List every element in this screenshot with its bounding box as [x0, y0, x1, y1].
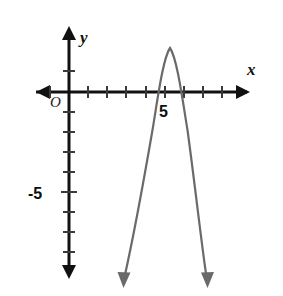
parabola-arrow-right: [201, 272, 214, 288]
graph-figure: y x O 5 -5: [0, 0, 283, 296]
y-tick-label-minus5: -5: [28, 186, 42, 202]
x-axis-arrow-right: [236, 85, 250, 99]
x-axis-arrow-left: [36, 85, 50, 99]
y-axis: [61, 26, 77, 279]
y-axis-label: y: [80, 29, 88, 46]
y-axis-arrow-up: [62, 26, 76, 40]
y-axis-arrow-down: [62, 265, 76, 279]
x-axis-label: x: [247, 61, 256, 78]
parabola-path: [125, 48, 207, 277]
parabola-curve: [118, 48, 215, 288]
coordinate-plane-svg: [0, 0, 283, 296]
x-tick-label-5: 5: [159, 104, 168, 120]
origin-label: O: [50, 95, 61, 110]
parabola-arrow-left: [118, 272, 131, 288]
